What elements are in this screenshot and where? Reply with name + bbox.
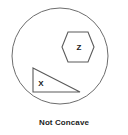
geometry-figure: Z X Not Concave [0, 0, 128, 135]
triangle-label: X [38, 79, 44, 88]
figure-caption: Not Concave [0, 118, 128, 128]
hexagon-label: Z [77, 43, 82, 52]
boundary-circle [12, 8, 108, 104]
diagram-canvas: Z X [0, 0, 128, 112]
